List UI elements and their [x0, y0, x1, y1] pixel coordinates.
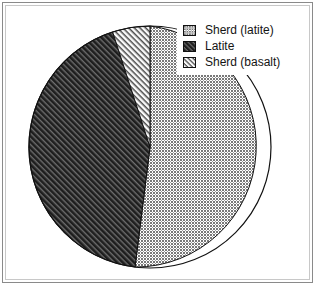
legend-swatch-dark-hatch-icon	[183, 41, 196, 52]
legend-label-sherd-basalt: Sherd (basalt)	[205, 56, 280, 69]
legend-label-latite: Latite	[205, 40, 234, 53]
legend-label-sherd-latite: Sherd (latite)	[205, 24, 274, 37]
legend-item-sherd-latite[interactable]: Sherd (latite)	[183, 23, 309, 38]
pie-chart-figure: Sherd (latite) Latite Sherd (basalt)	[0, 0, 317, 287]
legend-item-latite[interactable]: Latite	[183, 39, 309, 54]
plot-area: Sherd (latite) Latite Sherd (basalt)	[6, 6, 309, 279]
chart-legend: Sherd (latite) Latite Sherd (basalt)	[177, 18, 309, 75]
legend-swatch-light-hatch-icon	[183, 57, 196, 68]
legend-swatch-grey-stipple-icon	[183, 25, 196, 36]
legend-item-sherd-basalt[interactable]: Sherd (basalt)	[183, 55, 309, 70]
